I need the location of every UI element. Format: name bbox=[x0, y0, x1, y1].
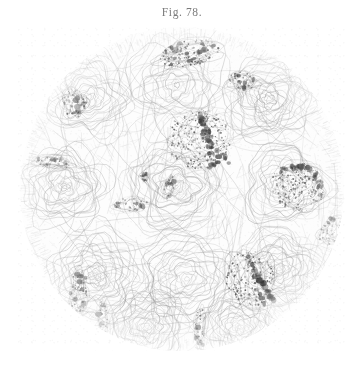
field-illustration: {} bbox=[17, 27, 347, 351]
microscope-field: {} bbox=[17, 27, 347, 351]
field-contents: {} bbox=[17, 27, 347, 351]
figure-number-label: Fig. 78. bbox=[0, 6, 364, 18]
field-vignette bbox=[17, 27, 347, 351]
engraving-plate: Fig. 78. bbox=[0, 0, 364, 369]
